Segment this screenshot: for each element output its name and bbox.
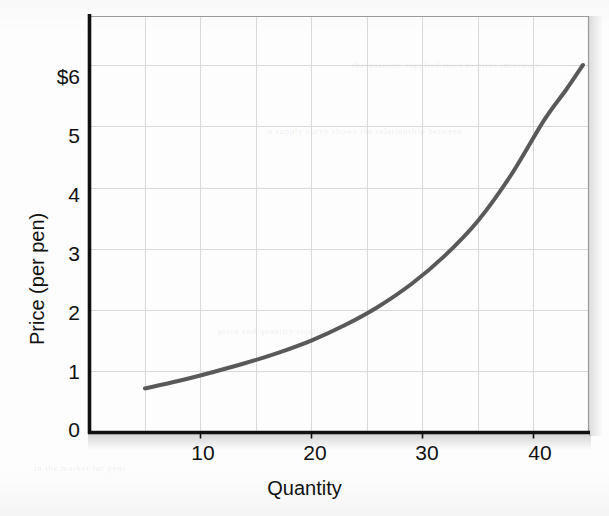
y-tick-label-5: 5	[36, 124, 80, 148]
plot-canvas	[0, 0, 609, 516]
gridlines	[90, 16, 589, 433]
y-tick-label-1: 1	[36, 360, 80, 384]
chart-figure: the quantity supplied rises as price inc…	[0, 0, 609, 516]
y-tick-label-6: $6	[36, 65, 80, 89]
x-tick-label-20: 20	[290, 441, 340, 465]
supply-curve	[145, 65, 583, 388]
x-tick-label-10: 10	[178, 441, 228, 465]
x-tick-label-40: 40	[515, 441, 565, 465]
x-axis-title: Quantity	[0, 477, 609, 500]
x-tick-label-30: 30	[402, 441, 452, 465]
y-tick-label-4: 4	[36, 183, 80, 207]
y-axis-title: Price (per pen)	[26, 213, 49, 345]
y-tick-label-0: 0	[36, 418, 80, 442]
